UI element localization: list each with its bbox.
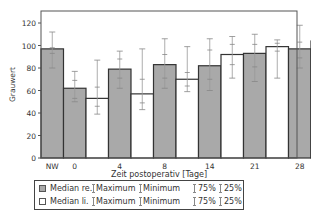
y-tick-label: 20: [26, 132, 36, 141]
y-tick-label: 40: [26, 109, 36, 118]
y-axis-label: Grauwert: [8, 67, 17, 102]
whisker-icon: [193, 197, 197, 206]
bar-chart: Grauwert 020406080100120 NW0481421284284…: [0, 0, 311, 180]
legend-label: Median re.: [50, 184, 92, 193]
y-tick-label: 120: [22, 19, 37, 28]
whisker-icon: [193, 184, 197, 193]
x-tick-label: 21: [250, 162, 260, 171]
whisker-icon: [219, 197, 223, 206]
legend-maximum: Maximum: [96, 184, 135, 193]
legend-row-left: Median li. Maximum Minimum 75% 25%: [35, 196, 243, 209]
svg-text:Grauwert: Grauwert: [8, 67, 17, 102]
legend: Median re. Maximum Minimum 75% 25% Media…: [34, 180, 244, 210]
legend-q25: 25%: [224, 197, 242, 206]
legend-minimum: Minimum: [143, 184, 180, 193]
legend-minimum: Minimum: [143, 197, 180, 206]
legend-q75: 75%: [198, 197, 216, 206]
y-tick-label: 60: [26, 87, 36, 96]
whisker-icon: [219, 184, 223, 193]
x-axis-label: Zeit postoperativ [Tage]: [111, 170, 207, 179]
x-tick-label: 28: [295, 162, 305, 171]
legend-row-right: Median re. Maximum Minimum 75% 25%: [35, 183, 243, 196]
legend-q75: 75%: [198, 184, 216, 193]
white-swatch-icon: [39, 198, 46, 205]
x-tick-label: NW: [46, 162, 60, 171]
x-tick-label: 0: [72, 162, 77, 171]
bars: [41, 41, 311, 158]
legend-label: Median li.: [50, 197, 89, 206]
legend-q25: 25%: [224, 184, 242, 193]
legend-maximum: Maximum: [96, 197, 135, 206]
y-axis-ticks: 020406080100120: [22, 19, 41, 163]
y-tick-label: 80: [26, 64, 36, 73]
y-tick-label: 100: [22, 42, 37, 51]
y-tick-label: 0: [31, 154, 36, 163]
grey-swatch-icon: [39, 185, 46, 192]
